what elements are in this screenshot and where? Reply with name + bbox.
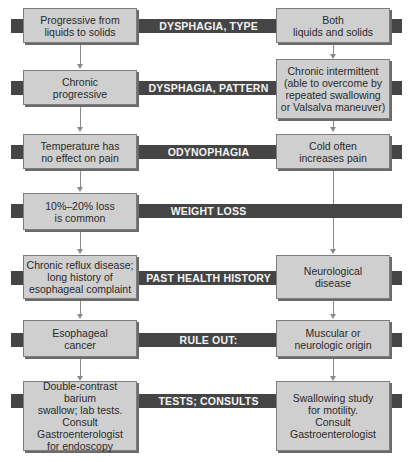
left-box-dysphagia-type: Progressive from liquids to solids (23, 8, 137, 43)
connector-left (80, 44, 81, 66)
connector-left (80, 358, 81, 378)
left-box-odynophagia: Temperature has no effect on pain (23, 134, 137, 169)
category-label: ODYNOPHAGIA (168, 147, 250, 158)
arrow-down-icon (330, 249, 336, 254)
arrow-down-icon (330, 314, 336, 319)
category-label: DYSPHAGIA, PATTERN (149, 83, 269, 94)
left-box-weight-loss: 10%–20% loss is common (23, 193, 137, 230)
category-label: TESTS; CONSULTS (158, 396, 258, 407)
connector-left (80, 106, 81, 129)
right-box-tests-consults: Swallowing study for motility. Consult G… (276, 381, 390, 451)
right-box-odynophagia: Cold often increases pain (276, 134, 390, 169)
arrow-down-icon (77, 187, 83, 192)
category-label: PAST HEALTH HISTORY (146, 273, 271, 284)
category-label: DYSPHAGIA, TYPE (159, 21, 258, 32)
connector-left (80, 169, 81, 189)
arrow-down-icon (330, 127, 336, 132)
right-box-dysphagia-type: Both liquids and solids (276, 8, 390, 43)
right-box-rule-out: Muscular or neurologic origin (276, 320, 390, 357)
arrow-down-icon (77, 64, 83, 69)
connector-right (333, 358, 334, 378)
category-label: RULE OUT: (180, 335, 238, 346)
left-box-rule-out: Esophageal cancer (23, 320, 137, 357)
left-box-tests-consults: Double-contrast barium swallow; lab test… (23, 381, 137, 451)
arrow-down-icon (77, 127, 83, 132)
arrow-down-icon (77, 249, 83, 254)
right-box-past-health-history: Neurological disease (276, 255, 390, 299)
left-box-dysphagia-pattern: Chronic progressive (23, 70, 137, 105)
arrow-down-icon (77, 314, 83, 319)
right-box-dysphagia-pattern: Chronic intermittent (able to overcome b… (276, 59, 390, 119)
left-box-past-health-history: Chronic reflux disease; long history of … (23, 255, 137, 299)
category-label: WEIGHT LOSS (171, 206, 247, 217)
